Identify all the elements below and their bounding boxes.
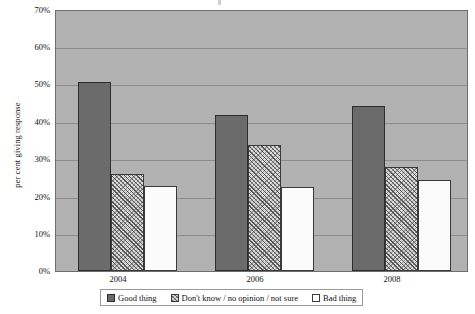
legend-swatch-icon-good-thing [107, 294, 115, 302]
bar-chart: per cent giving response 70% 60% 50% 40%… [0, 0, 475, 314]
legend-label-good-thing: Good thing [118, 293, 157, 303]
x-tick-label-2008: 2008 [357, 274, 427, 284]
y-tick-label: 0% [4, 267, 50, 276]
legend-entry-dont-know: Don't know / no opinion / not sure [171, 293, 299, 303]
gridline-60 [56, 48, 467, 49]
y-tick-label: 30% [4, 155, 50, 164]
bar-2008-good-thing [352, 106, 385, 271]
bar-2004-bad-thing [144, 186, 177, 271]
bar-2004-dont-know [111, 174, 144, 271]
y-tick-label: 20% [4, 193, 50, 202]
bar-2006-good-thing [215, 115, 248, 271]
legend-swatch-icon-bad-thing [312, 294, 320, 302]
bar-2008-dont-know [385, 167, 418, 271]
gridline-40 [56, 123, 467, 124]
bar-2004-good-thing [78, 82, 111, 271]
y-tick-label: 60% [4, 43, 50, 52]
legend-entry-good-thing: Good thing [107, 293, 157, 303]
y-tick-label: 50% [4, 80, 50, 89]
bar-2006-dont-know [248, 145, 281, 271]
legend-swatch-icon-dont-know [171, 294, 179, 302]
y-tick-label: 40% [4, 118, 50, 127]
plot-area [55, 10, 468, 272]
bar-2006-bad-thing [281, 187, 314, 271]
legend-label-bad-thing: Bad thing [323, 293, 356, 303]
gridline-50 [56, 85, 467, 86]
chart-legend: Good thing Don't know / no opinion / not… [100, 289, 363, 306]
bar-2008-bad-thing [418, 180, 451, 271]
x-tick-label-2006: 2006 [220, 274, 290, 284]
y-tick-label: 10% [4, 230, 50, 239]
x-tick-label-2004: 2004 [83, 274, 153, 284]
y-tick-label: 70% [4, 6, 50, 15]
legend-entry-bad-thing: Bad thing [312, 293, 356, 303]
legend-label-dont-know: Don't know / no opinion / not sure [182, 293, 299, 303]
